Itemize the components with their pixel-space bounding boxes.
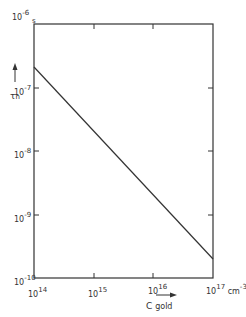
- y-unit-label: s: [32, 17, 36, 25]
- chart-canvas: [0, 0, 246, 317]
- y-tick-label-1e-9: 10-9: [14, 216, 31, 224]
- y-tick-label-1e-6: 10-6: [12, 14, 29, 22]
- x-axis-title: C gold: [146, 302, 172, 311]
- x-tick-label-1e17: 1017 cm-3: [206, 288, 246, 296]
- x-ticks: [94, 24, 153, 278]
- y-axis-title: τn: [10, 92, 20, 101]
- y-axis-arrow: [13, 63, 18, 82]
- y-tick-label-1e-10: 10-10: [14, 279, 36, 287]
- x-tick-label-1e14: 1014: [28, 291, 47, 299]
- y-ticks-left: [34, 88, 39, 215]
- plot-frame: [34, 24, 213, 278]
- x-tick-label-1e15: 1015: [88, 291, 107, 299]
- x-tick-label-1e16: 1016: [148, 288, 167, 296]
- data-line: [34, 67, 213, 259]
- y-ticks-right: [208, 88, 213, 215]
- y-tick-label-1e-8: 10-8: [14, 152, 31, 160]
